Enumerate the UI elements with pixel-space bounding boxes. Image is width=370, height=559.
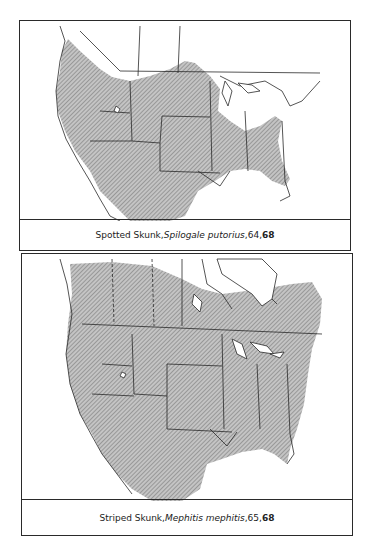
page-reference: 65 <box>248 513 259 523</box>
page-reference: 64 <box>248 230 259 240</box>
scientific-name: Spilogale putorius <box>164 230 245 240</box>
striped-skunk-range-map <box>22 254 352 501</box>
striped-skunk-caption: Striped Skunk, Mephitis mephitis, 65, 68 <box>22 499 352 535</box>
spotted-skunk-caption: Spotted Skunk, Spilogale putorius, 64, 6… <box>20 219 350 250</box>
spotted-skunk-range-map <box>20 21 350 221</box>
common-name: Spotted Skunk <box>95 230 160 240</box>
spotted-skunk-map-panel: Spotted Skunk, Spilogale putorius, 64, 6… <box>19 20 351 251</box>
spotted-skunk-range <box>56 39 290 221</box>
common-name: Striped Skunk <box>100 513 163 523</box>
striped-skunk-map-panel: Striped Skunk, Mephitis mephitis, 65, 68 <box>21 253 353 536</box>
plate-reference: 68 <box>262 230 275 240</box>
scientific-name: Mephitis mephitis <box>165 513 245 523</box>
plate-reference: 68 <box>262 513 275 523</box>
